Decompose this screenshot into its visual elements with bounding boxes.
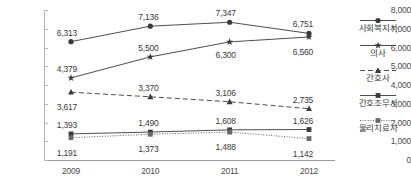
legend-marker-icon xyxy=(352,87,404,98)
data-point-label: 3,106 xyxy=(204,88,248,98)
x-axis-tick-label: 2011 xyxy=(200,166,260,176)
data-point-label: 6,751 xyxy=(281,19,325,29)
legend-marker-icon xyxy=(352,12,404,23)
data-point-label: 1,626 xyxy=(281,116,325,126)
series-marker xyxy=(307,136,312,141)
legend-item-2[interactable]: 의사 xyxy=(345,37,411,59)
data-point-label: 6,300 xyxy=(204,50,248,60)
series-marker xyxy=(68,89,74,95)
x-axis-tick-label: 2009 xyxy=(41,166,101,176)
series-marker xyxy=(69,135,74,140)
data-point-label: 1,191 xyxy=(45,148,89,158)
data-point-label: 3,617 xyxy=(45,102,89,112)
series-marker xyxy=(227,20,232,25)
series-marker xyxy=(307,127,312,132)
y-axis-tick-mark xyxy=(44,85,48,86)
series-line xyxy=(71,37,309,78)
x-axis-tick-label: 2012 xyxy=(279,166,339,176)
series-marker xyxy=(227,127,232,132)
legend-item-5[interactable]: 물리치료사 xyxy=(345,112,411,134)
series-marker xyxy=(305,33,312,40)
chart-legend: 사회복지사의사간호사간호조무사물리치료사 xyxy=(345,12,411,137)
data-point-label: 7,347 xyxy=(204,8,248,18)
series-marker xyxy=(227,130,232,135)
legend-marker-icon xyxy=(352,112,404,123)
legend-item-4[interactable]: 간호조무사 xyxy=(345,87,411,109)
x-axis-tick-label: 2010 xyxy=(120,166,180,176)
series-marker xyxy=(147,94,153,100)
series-marker xyxy=(148,132,153,137)
data-point-label: 2,735 xyxy=(281,95,325,105)
legend-marker-icon xyxy=(352,37,404,48)
y-axis-tick-label: 1,000 xyxy=(373,136,411,146)
series-marker xyxy=(306,106,312,112)
line-chart: 01,0002,0003,0004,0005,0006,0007,0008,00… xyxy=(0,0,411,183)
series-marker xyxy=(148,24,153,29)
data-point-label: 1,393 xyxy=(45,120,89,130)
legend-item-3[interactable]: 간호사 xyxy=(345,62,411,84)
data-point-label: 6,313 xyxy=(45,28,89,38)
series-line xyxy=(71,132,309,138)
data-point-label: 5,500 xyxy=(126,43,170,53)
data-point-label: 6,560 xyxy=(281,47,325,57)
y-axis-tick-label: 0 xyxy=(373,155,411,165)
y-axis-tick-mark xyxy=(44,10,48,11)
series-marker xyxy=(67,74,74,81)
data-point-label: 7,136 xyxy=(126,12,170,22)
data-point-label: 1,373 xyxy=(126,144,170,154)
series-marker xyxy=(148,130,153,135)
series-marker xyxy=(227,99,233,105)
series-marker xyxy=(69,131,74,136)
data-point-label: 1,608 xyxy=(204,116,248,126)
data-point-label: 1,490 xyxy=(126,118,170,128)
series-line xyxy=(71,92,309,109)
series-line xyxy=(71,22,309,41)
series-marker xyxy=(147,53,154,60)
y-axis-tick-mark xyxy=(44,141,48,142)
series-line xyxy=(71,130,309,134)
series-marker xyxy=(306,31,311,36)
legend-marker-icon xyxy=(352,62,404,73)
data-point-label: 4,379 xyxy=(45,64,89,74)
data-point-label: 3,370 xyxy=(126,83,170,93)
data-point-label: 1,488 xyxy=(204,142,248,152)
x-axis-line xyxy=(44,160,335,161)
y-axis-tick-mark xyxy=(44,48,48,49)
data-point-label: 1,142 xyxy=(281,149,325,159)
series-marker xyxy=(68,39,73,44)
series-marker xyxy=(226,38,233,45)
legend-item-1[interactable]: 사회복지사 xyxy=(345,12,411,34)
y-axis-tick-mark xyxy=(44,160,48,161)
